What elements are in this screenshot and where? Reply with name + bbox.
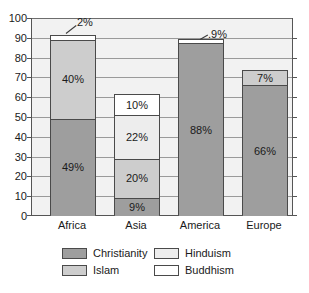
- x-label-asia: Asia: [101, 219, 171, 232]
- x-label-africa: Africa: [37, 219, 107, 232]
- y-tick-label: 40: [1, 132, 27, 143]
- bar-segment-label: 88%: [190, 125, 212, 136]
- legend-swatch-icon: [154, 265, 179, 276]
- y-tick-label: 90: [1, 33, 27, 44]
- axis-tick: [27, 137, 32, 138]
- bar-segment-label: 10%: [126, 100, 148, 111]
- axis-tick: [27, 157, 32, 158]
- legend-label: Islam: [93, 265, 119, 276]
- bar-segment-africa-islam: 40%: [51, 40, 95, 119]
- legend-item-hinduism[interactable]: Hinduism: [154, 248, 252, 259]
- bar-segment-europe-islam: 7%: [243, 71, 287, 85]
- axis-tick: [27, 97, 32, 98]
- bar-segment-label: 20%: [126, 173, 148, 184]
- x-label-america: America: [165, 219, 235, 232]
- axis-tick: [292, 157, 297, 158]
- bar-asia[interactable]: 10% 22% 20% 9%: [114, 94, 160, 215]
- bar-europe[interactable]: 7% 66%: [242, 70, 288, 215]
- legend-swatch-icon: [154, 248, 179, 259]
- axis-tick: [27, 77, 32, 78]
- legend-swatch-icon: [62, 248, 87, 259]
- bar-segment-label: 7%: [257, 73, 273, 84]
- legend-label: Buddhism: [185, 265, 234, 276]
- chart-legend: Christianity Hinduism Islam Buddhism: [62, 245, 252, 281]
- bar-segment-america-christianity: 88%: [179, 43, 223, 216]
- callout-africa-buddhism: 2%: [77, 17, 93, 28]
- legend-label: Christianity: [93, 248, 147, 259]
- y-tick-label: 30: [1, 152, 27, 163]
- axis-tick: [292, 137, 297, 138]
- axis-tick: [27, 58, 32, 59]
- y-tick-label: 60: [1, 92, 27, 103]
- y-tick-label: 70: [1, 72, 27, 83]
- bar-segment-asia-hinduism: 22%: [115, 115, 159, 159]
- y-tick-label: 20: [1, 171, 27, 182]
- axis-tick: [27, 215, 32, 216]
- y-axis-tick-labels: 100 90 80 70 60 50 40 30 20 10 0: [0, 18, 27, 216]
- bar-africa[interactable]: 2% 40% 49%: [50, 35, 96, 215]
- legend-item-christianity[interactable]: Christianity: [62, 248, 154, 259]
- bar-segment-africa-christianity: 49%: [51, 119, 95, 216]
- axis-tick: [292, 196, 297, 197]
- axis-tick: [292, 38, 297, 39]
- legend-swatch-icon: [62, 265, 87, 276]
- axis-tick: [292, 97, 297, 98]
- y-tick-label: 100: [1, 13, 27, 24]
- callout-label: 2%: [77, 16, 93, 28]
- stacked-bar-chart: 100 90 80 70 60 50 40 30 20 10 0: [0, 0, 309, 293]
- callout-label: .9%: [208, 28, 227, 40]
- axis-tick: [27, 18, 32, 19]
- y-tick-label: 80: [1, 53, 27, 64]
- legend-item-buddhism[interactable]: Buddhism: [154, 265, 252, 276]
- callout-america-buddhism: .9%: [208, 29, 227, 40]
- axis-tick: [27, 38, 32, 39]
- bar-segment-asia-christianity: 9%: [115, 198, 159, 216]
- axis-tick: [292, 77, 297, 78]
- axis-tick: [292, 215, 297, 216]
- bar-segment-europe-christianity: 66%: [243, 85, 287, 216]
- axis-tick: [292, 58, 297, 59]
- y-tick-label: 0: [1, 211, 27, 222]
- y-tick-label: 50: [1, 112, 27, 123]
- plot-frame: 2% 40% 49% 10% 22% 20%: [31, 18, 293, 216]
- bar-segment-asia-islam: 20%: [115, 159, 159, 199]
- bar-segment-label: 49%: [62, 162, 84, 173]
- x-axis-labels: Africa Asia America Europe: [31, 219, 293, 235]
- bar-segment-label: 40%: [62, 74, 84, 85]
- axis-tick: [27, 196, 32, 197]
- bar-segment-label: 9%: [129, 202, 145, 213]
- bar-america[interactable]: .9% 88%: [178, 39, 224, 215]
- plot-area: 2% 40% 49% 10% 22% 20%: [31, 18, 293, 216]
- axis-tick: [27, 117, 32, 118]
- axis-tick: [292, 176, 297, 177]
- legend-item-islam[interactable]: Islam: [62, 265, 154, 276]
- y-tick-label: 10: [1, 191, 27, 202]
- axis-tick: [292, 117, 297, 118]
- bar-segment-label: 66%: [254, 146, 276, 157]
- x-label-europe: Europe: [229, 219, 299, 232]
- bar-segment-asia-buddhism: 10%: [115, 95, 159, 115]
- bar-segment-label: 22%: [126, 132, 148, 143]
- axis-tick: [27, 176, 32, 177]
- legend-label: Hinduism: [185, 248, 231, 259]
- gridline-100: [32, 18, 292, 19]
